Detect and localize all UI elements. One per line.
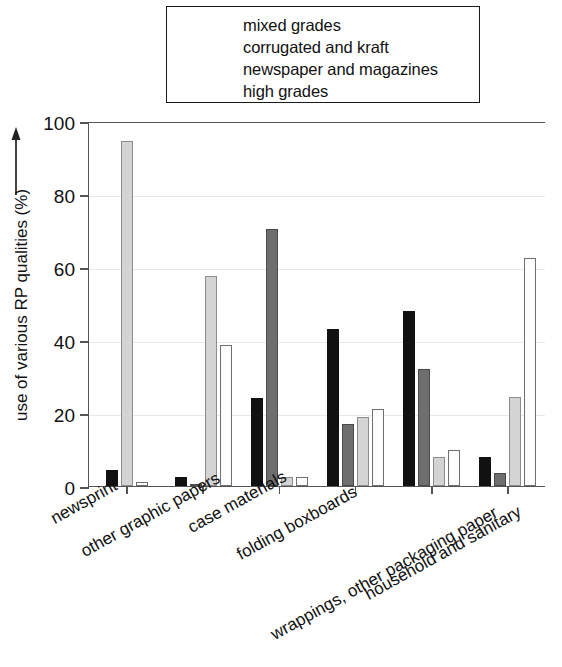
bar: [327, 329, 339, 486]
bar: [372, 409, 384, 486]
legend-item: newspaper and magazines: [176, 58, 470, 80]
bar: [136, 482, 148, 486]
bar: [524, 258, 536, 486]
y-axis-tick-label: 40: [54, 333, 75, 352]
x-axis-category-label: household and sanitary: [362, 503, 524, 603]
bar: [433, 457, 445, 486]
bar: [448, 450, 460, 487]
y-axis-tick: [80, 487, 89, 489]
bar: [479, 457, 491, 486]
y-axis-tick-label: 20: [54, 406, 75, 425]
chart-plot-area: 020406080100: [88, 122, 545, 487]
y-axis-tick-label: 80: [54, 187, 75, 206]
bar: [190, 484, 202, 486]
bar: [106, 470, 118, 486]
legend-label: high grades: [243, 83, 328, 100]
x-axis-tick: [355, 486, 357, 494]
bar: [296, 477, 308, 486]
bar: [220, 345, 232, 486]
x-axis-tick: [279, 486, 281, 494]
y-axis-tick: [80, 268, 89, 270]
y-axis-tick: [80, 341, 89, 343]
bar-group: [394, 123, 470, 486]
legend-swatch-corrugated-and-kraft: [176, 41, 230, 54]
bar: [509, 397, 521, 486]
y-axis-title: use of various RP qualities (%): [8, 122, 34, 487]
bar: [357, 417, 369, 486]
x-axis-tick: [431, 486, 433, 494]
bar: [205, 276, 217, 486]
bar: [121, 141, 133, 486]
x-axis-tick: [507, 486, 509, 494]
y-axis-tick-label: 0: [64, 479, 75, 498]
bar-group: [241, 123, 317, 486]
y-axis-tick: [80, 414, 89, 416]
bar: [175, 477, 187, 486]
y-axis-title-text: use of various RP qualities (%): [13, 188, 30, 420]
bar: [342, 424, 354, 486]
bar: [418, 369, 430, 486]
legend-label: corrugated and kraft: [243, 39, 389, 56]
legend-swatch-high-grades: [176, 85, 230, 98]
legend-label: mixed grades: [243, 17, 341, 34]
bar: [266, 229, 278, 486]
legend-item: high grades: [176, 80, 470, 102]
x-axis-category-label: wrappings, other packaging paper: [268, 504, 500, 643]
legend-item: corrugated and kraft: [176, 36, 470, 58]
y-axis-tick-label: 60: [54, 260, 75, 279]
bar-group: [89, 123, 165, 486]
legend-item: mixed grades: [176, 14, 470, 36]
bar: [494, 473, 506, 486]
bar: [403, 311, 415, 486]
x-axis-tick: [126, 486, 128, 494]
x-axis-tick: [202, 486, 204, 494]
bar: [251, 398, 263, 486]
y-axis-tick: [80, 195, 89, 197]
chart-legend: mixed grades corrugated and kraft newspa…: [166, 6, 480, 103]
legend-swatch-newspaper-and-magazines: [176, 63, 230, 76]
x-axis-category-label: folding boxboards: [234, 483, 360, 563]
legend-label: newspaper and magazines: [243, 61, 438, 78]
bar: [281, 477, 293, 486]
y-axis-tick: [80, 122, 89, 124]
bar-group: [470, 123, 546, 486]
bar-group: [165, 123, 241, 486]
y-axis-tick-label: 100: [43, 114, 75, 133]
legend-swatch-mixed-grades: [176, 19, 230, 32]
bar-group: [318, 123, 394, 486]
